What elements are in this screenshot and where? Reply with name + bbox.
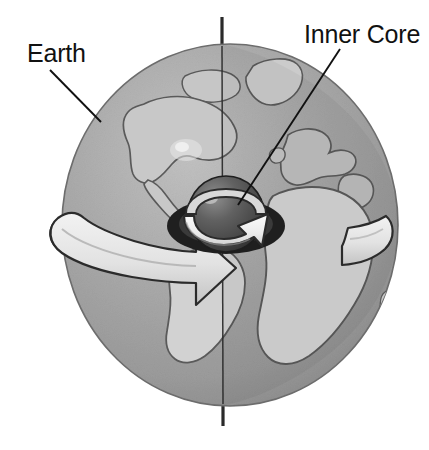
label-inner-core: Inner Core xyxy=(304,21,420,47)
earth-leader-line xyxy=(50,70,101,122)
earth-inner-core-diagram: Earth Inner Core xyxy=(0,0,429,450)
globe-highlight-core xyxy=(175,142,189,152)
diagram-canvas xyxy=(0,0,429,450)
label-earth: Earth xyxy=(27,40,86,66)
